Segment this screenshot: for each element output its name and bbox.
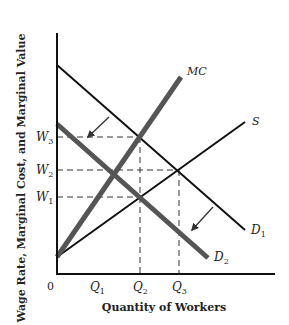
mc-curve — [57, 77, 181, 257]
origin-label: 0 — [47, 280, 54, 293]
y-axis-title: Wage Rate, Marginal Cost, and Marginal V… — [15, 33, 28, 323]
x-tick-q1: Q1 — [90, 280, 105, 296]
shift-arrow-upper — [88, 117, 109, 137]
d1-label: D1 — [250, 223, 266, 239]
labor-market-diagram: W3 W2 W1 0 Q1 Q2 Q3 MC S D1 D2 Quantity … — [0, 0, 289, 325]
mc-label: MC — [186, 65, 207, 78]
guide-lines — [57, 137, 179, 274]
x-axis-title: Quantity of Workers — [102, 301, 226, 314]
y-tick-w3: W3 — [36, 130, 53, 146]
s-label: S — [252, 115, 260, 128]
y-tick-w2: W2 — [36, 163, 53, 179]
x-tick-q3: Q3 — [172, 280, 187, 296]
d2-label: D2 — [213, 250, 229, 266]
x-tick-q2: Q2 — [133, 280, 148, 296]
s-curve — [57, 122, 245, 257]
y-tick-w1: W1 — [36, 190, 53, 206]
shift-arrow-lower — [192, 207, 213, 230]
